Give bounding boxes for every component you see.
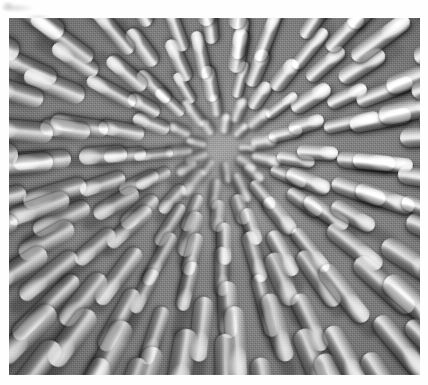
floret-club bbox=[9, 118, 54, 145]
floret-club bbox=[215, 333, 236, 375]
photograph-plate bbox=[9, 18, 420, 375]
floret-club bbox=[78, 145, 127, 166]
page bbox=[0, 0, 428, 385]
floret-club bbox=[297, 144, 339, 161]
